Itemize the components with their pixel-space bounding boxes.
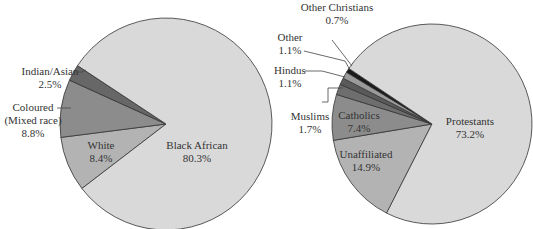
slice-label-coloured-mixed-race: Coloured(Mixed race)8.8% [4, 101, 61, 139]
pie-charts: Black African80.3%White8.4%Coloured(Mixe… [0, 0, 533, 229]
leader-line-hindus [305, 71, 345, 77]
pie-chart-religion: Protestants73.2%Unaffiliated14.9%Catholi… [274, 1, 532, 224]
slice-label-other: Other1.1% [277, 31, 302, 56]
leader-line-other-christians [332, 40, 352, 66]
pie-chart-ethnicity: Black African80.3%White8.4%Coloured(Mixe… [4, 18, 272, 229]
slice-label-white: White8.4% [88, 139, 115, 164]
slice-label-muslims: Muslims1.7% [291, 110, 330, 135]
slice-label-other-christians: Other Christians0.7% [301, 1, 373, 26]
slice-label-hindus: Hindus1.1% [274, 64, 306, 89]
